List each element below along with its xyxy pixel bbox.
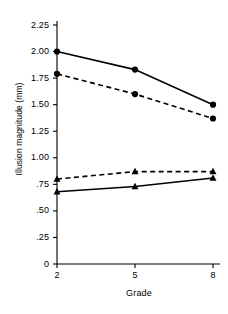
data-point-circle [54,71,60,77]
data-series-group [54,48,217,194]
series-circle-solid [54,48,216,107]
y-axis-ticks [53,25,57,264]
data-point-circle [54,48,60,54]
y-tick-label: 1.00 [9,153,49,162]
y-tick-label: 0 [9,260,49,269]
y-tick-label: 2.25 [9,21,49,30]
data-point-circle [132,67,138,73]
data-point-circle [210,102,216,108]
y-tick-label: 1.75 [9,74,49,83]
y-tick-label: 1.50 [9,100,49,109]
data-point-circle [132,91,138,97]
series-circle-dashed [54,71,216,122]
x-tick-label: 5 [123,271,147,280]
x-tick-label: 2 [45,271,69,280]
y-tick-label: .75 [9,180,49,189]
x-axis-ticks [57,264,213,268]
y-tick-label: 1.25 [9,127,49,136]
y-tick-label: .50 [9,206,49,215]
y-tick-label: 2.00 [9,47,49,56]
chart-figure: Illusion magnitude (mm) 0.25.50.751.001.… [0,0,228,314]
y-tick-label: .25 [9,233,49,242]
data-point-circle [210,115,216,121]
x-axis-title: Grade [56,288,222,298]
x-tick-label: 8 [201,271,225,280]
